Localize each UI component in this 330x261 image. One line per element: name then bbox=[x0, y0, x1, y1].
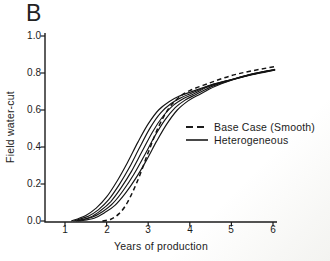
x-tick-label: 5 bbox=[220, 225, 242, 235]
x-axis-title: Years of production bbox=[81, 240, 241, 254]
y-tick-label: 0.0 bbox=[19, 216, 41, 226]
x-tick-label: 2 bbox=[96, 225, 118, 235]
legend-label: Heterogeneous bbox=[214, 134, 288, 146]
x-tick-label: 1 bbox=[54, 225, 76, 235]
legend-label: Base Case (Smooth) bbox=[214, 121, 315, 133]
solid-line-sample-icon bbox=[186, 137, 208, 143]
x-tick-label: 3 bbox=[137, 225, 159, 235]
figure-panel: B 0.0 0.2 0.4 0.6 0.8 1.0 1 2 3 4 5 6 Fi… bbox=[0, 0, 330, 261]
x-tick-label: 4 bbox=[179, 225, 201, 235]
legend-item-base-case: Base Case (Smooth) bbox=[186, 120, 315, 134]
y-tick-label: 0.8 bbox=[19, 68, 41, 78]
y-tick-label: 0.2 bbox=[19, 179, 41, 189]
y-axis-title: Field water-cut bbox=[3, 47, 17, 207]
y-tick-label: 0.6 bbox=[19, 105, 41, 115]
dashed-line-sample-icon bbox=[186, 124, 208, 130]
x-tick-label: 6 bbox=[262, 225, 284, 235]
y-tick-label: 1.0 bbox=[19, 31, 41, 41]
y-tick-label: 0.4 bbox=[19, 142, 41, 152]
legend-item-heterogeneous: Heterogeneous bbox=[186, 134, 315, 148]
legend: Base Case (Smooth) Heterogeneous bbox=[186, 120, 315, 147]
